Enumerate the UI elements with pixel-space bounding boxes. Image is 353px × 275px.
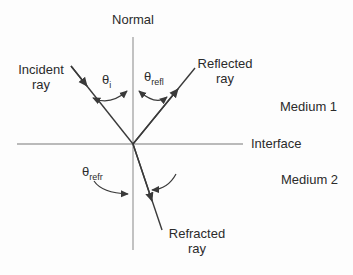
theta-i-subscript: i [109, 80, 111, 90]
theta-refr-left-arrow [94, 181, 128, 194]
medium-1-label: Medium 1 [280, 99, 337, 114]
theta-refr-label: θrefr [82, 164, 103, 182]
theta-i-label: θi [102, 72, 111, 90]
normal-label: Normal [112, 12, 154, 27]
medium-2-label: Medium 2 [281, 172, 338, 187]
theta-refr-right-arrow [152, 174, 176, 190]
refracted-ray-label-line2: ray [169, 241, 225, 256]
incident-ray-arrowhead [71, 66, 87, 86]
theta-i-arc [93, 91, 127, 101]
reflected-ray-label: Reflected ray [198, 56, 253, 86]
theta-refl-subscript: refl [151, 77, 164, 87]
incident-ray-label-line2: ray [18, 77, 64, 92]
refracted-ray-label: Refracted ray [169, 226, 225, 256]
reflected-ray-label-line1: Reflected [198, 56, 253, 71]
theta-refl-label: θrefl [144, 69, 164, 87]
reflected-ray-label-line2: ray [198, 71, 253, 86]
ray-diagram: Normal Incident ray Reflected ray Medium… [0, 0, 353, 275]
theta-refr-subscript: refr [89, 172, 103, 182]
reflected-ray-arrowhead [133, 89, 178, 144]
refracted-ray-arrowhead [133, 144, 152, 201]
incident-ray-label: Incident ray [18, 62, 64, 92]
theta-refl-arc [139, 91, 167, 100]
interface-label: Interface [251, 136, 302, 151]
refracted-ray-label-line1: Refracted [169, 226, 225, 241]
incident-ray-label-line1: Incident [18, 62, 64, 77]
